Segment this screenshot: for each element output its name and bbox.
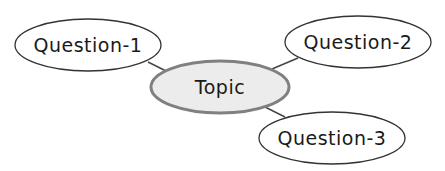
node-question-1[interactable]: Question-1 — [15, 19, 161, 71]
node-question-3[interactable]: Question-3 — [259, 112, 405, 164]
mind-map-diagram: Question-1 Question-2 Topic Question-3 — [0, 0, 445, 171]
node-question-2[interactable]: Question-2 — [285, 16, 431, 68]
node-question-1-label: Question-1 — [34, 34, 143, 56]
edge-topic-question-3 — [265, 107, 285, 117]
node-topic-label: Topic — [194, 76, 245, 98]
node-topic[interactable]: Topic — [151, 61, 289, 113]
edge-topic-question-2 — [272, 58, 298, 69]
node-question-3-label: Question-3 — [278, 127, 387, 149]
node-question-2-label: Question-2 — [304, 31, 413, 53]
mind-map-canvas: Question-1 Question-2 Topic Question-3 — [0, 0, 445, 171]
